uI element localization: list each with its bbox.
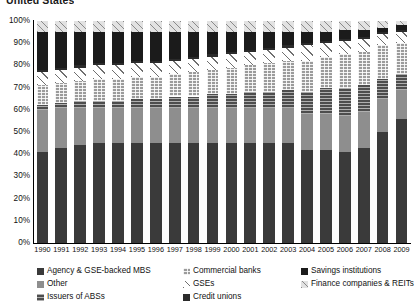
x-axis-tick-label: 1993 xyxy=(90,245,109,254)
bar-segment xyxy=(282,48,294,61)
bar-segment xyxy=(37,110,49,152)
x-axis-tick-label: 1990 xyxy=(33,245,52,254)
legend-item-label: Finance companies & REITs xyxy=(311,279,414,289)
legend-item[interactable]: Agency & GSE-backed MBS xyxy=(37,266,151,276)
bar-segment xyxy=(112,101,124,108)
y-axis-tick-label: 10% xyxy=(0,217,30,225)
bar-segment xyxy=(131,63,143,76)
bar-segment xyxy=(188,21,200,32)
bar-stack xyxy=(396,21,408,243)
bar-segment xyxy=(263,21,275,32)
bar-segment xyxy=(320,114,332,150)
x-axis-tick-label: 2001 xyxy=(241,245,260,254)
bar-segment xyxy=(93,32,105,63)
bar-segment xyxy=(358,37,370,39)
bar-segment xyxy=(55,103,67,107)
x-axis-tick-label: 2005 xyxy=(317,245,336,254)
bar-segment xyxy=(112,21,124,32)
x-axis-tick-label: 1998 xyxy=(184,245,203,254)
bar-segment xyxy=(112,65,124,78)
bar-segment xyxy=(226,68,238,95)
bar-segment xyxy=(320,21,332,32)
bar-stack xyxy=(358,21,370,243)
y-axis-tick-label: 100% xyxy=(0,17,30,25)
legend-item[interactable]: GSEs xyxy=(183,279,214,289)
legend-item[interactable]: Issuers of ABSs xyxy=(37,292,105,302)
y-axis-tick-label: 40% xyxy=(0,150,30,158)
bar-segment xyxy=(244,32,256,50)
legend-swatch-solid-black xyxy=(183,294,190,301)
bar-segment xyxy=(37,32,49,70)
legend-item[interactable]: Finance companies & REITs xyxy=(301,279,414,289)
legend-item[interactable]: Credit unions xyxy=(183,292,241,302)
bar-segment xyxy=(339,88,351,117)
legend-item-label: Agency & GSE-backed MBS xyxy=(47,266,151,276)
bar-segment xyxy=(282,21,294,32)
bar-segment xyxy=(396,32,408,43)
bar-segment xyxy=(263,63,275,92)
bar-segment xyxy=(301,43,313,45)
bar-segment xyxy=(93,63,105,65)
legend-item-label: Credit unions xyxy=(193,292,241,302)
legend-item[interactable]: Other xyxy=(37,279,67,289)
legend-item[interactable]: Savings institutions xyxy=(301,266,381,276)
bar-segment xyxy=(358,21,370,30)
bar-segment xyxy=(55,83,67,103)
legend-swatch-grid-hatch xyxy=(183,268,190,275)
bar-segment xyxy=(396,74,408,90)
bar-segment xyxy=(37,105,49,109)
plot-area xyxy=(33,21,411,243)
bar-stack xyxy=(112,21,124,243)
bar-segment xyxy=(263,32,275,48)
legend-item-label: Savings institutions xyxy=(311,266,381,276)
bar-segment xyxy=(169,32,181,59)
bar-segment xyxy=(188,32,200,56)
bar-segment xyxy=(244,143,256,243)
bar-segment xyxy=(207,32,219,54)
bar-segment xyxy=(150,99,162,108)
bar-segment xyxy=(244,65,256,92)
bar-stack xyxy=(282,21,294,243)
bar-segment xyxy=(226,143,238,243)
bar-segment xyxy=(301,92,313,114)
bar-segment xyxy=(377,99,389,132)
bar-segment xyxy=(263,48,275,50)
bar-segment xyxy=(131,21,143,32)
bar-segment xyxy=(377,132,389,243)
bar-segment xyxy=(188,108,200,144)
bar-segment xyxy=(207,94,219,107)
bar-segment xyxy=(339,41,351,54)
bar-segment xyxy=(226,52,238,54)
bar-stack xyxy=(377,21,389,243)
bar-segment xyxy=(169,74,181,96)
bar-segment xyxy=(226,32,238,52)
bar-segment xyxy=(131,143,143,243)
bar-segment xyxy=(74,101,86,108)
bar-segment xyxy=(112,63,124,65)
bar-segment xyxy=(188,59,200,72)
bar-segment xyxy=(74,108,86,146)
bar-segment xyxy=(74,32,86,65)
bar-segment xyxy=(244,21,256,32)
bar-stack xyxy=(169,21,181,243)
x-axis-tick-label: 1995 xyxy=(128,245,147,254)
bar-segment xyxy=(263,92,275,108)
bar-segment xyxy=(226,21,238,32)
bar-segment xyxy=(396,30,408,32)
legend-item[interactable]: Commercial banks xyxy=(183,266,261,276)
bar-segment xyxy=(207,54,219,56)
bar-segment xyxy=(55,68,67,70)
bar-segment xyxy=(131,61,143,63)
bar-segment xyxy=(93,65,105,78)
x-axis-tick-label: 2002 xyxy=(260,245,279,254)
bar-stack xyxy=(301,21,313,243)
bar-segment xyxy=(396,25,408,29)
x-axis-line xyxy=(33,243,411,244)
bar-segment xyxy=(150,32,162,61)
bar-segment xyxy=(320,150,332,243)
x-axis-tick-label: 2004 xyxy=(298,245,317,254)
bar-segment xyxy=(93,101,105,108)
bar-segment xyxy=(339,152,351,243)
bar-stack xyxy=(320,21,332,243)
bar-segment xyxy=(37,21,49,32)
